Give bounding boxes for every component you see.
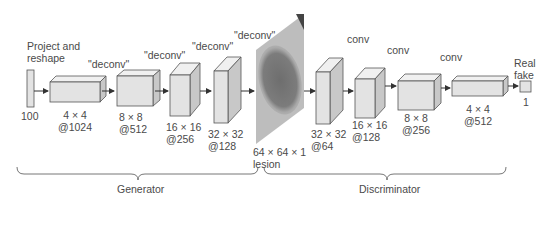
input-vector-block <box>27 70 34 107</box>
output-size: 1 <box>523 96 529 108</box>
input-size: 100 <box>21 110 39 122</box>
input-label: Project andreshape <box>27 40 80 64</box>
disc-block-2 <box>355 68 385 118</box>
disc-op-1: conv <box>347 33 369 45</box>
output-label: Realfake <box>514 57 536 81</box>
gen-dims-4: 32 × 32@128 <box>208 128 243 152</box>
disc-block-4 <box>452 76 508 96</box>
gen-dims-3: 16 × 16@256 <box>166 121 201 145</box>
discriminator-label: Discriminator <box>359 183 420 195</box>
disc-op-3: conv <box>440 51 462 63</box>
disc-dims-3: 8 × 8@256 <box>398 112 434 136</box>
gen-op-4: "deconv" <box>234 29 275 41</box>
gen-block-3 <box>170 63 200 116</box>
lesion-label: 64 × 64 × 1lesion <box>253 146 306 170</box>
gen-op-2: "deconv" <box>144 49 185 61</box>
gen-block-4 <box>214 57 241 123</box>
gen-block-2 <box>117 70 160 106</box>
gen-dims-2: 8 × 8@512 <box>119 111 147 135</box>
output-block <box>520 81 531 92</box>
generator-brace <box>17 167 258 180</box>
gen-block-1 <box>50 76 106 102</box>
gen-dims-1: 4 × 4@1024 <box>56 109 94 133</box>
disc-block-1 <box>316 58 343 124</box>
generator-label: Generator <box>117 183 164 195</box>
disc-dims-1: 32 × 32@64 <box>311 128 346 152</box>
disc-dims-4: 4 × 4@512 <box>459 103 497 127</box>
gen-op-3: "deconv" <box>192 40 233 52</box>
disc-block-3 <box>398 74 441 110</box>
disc-op-2: conv <box>387 44 409 56</box>
gen-op-1: "deconv" <box>88 58 129 70</box>
disc-dims-2: 16 × 16@128 <box>352 119 387 143</box>
